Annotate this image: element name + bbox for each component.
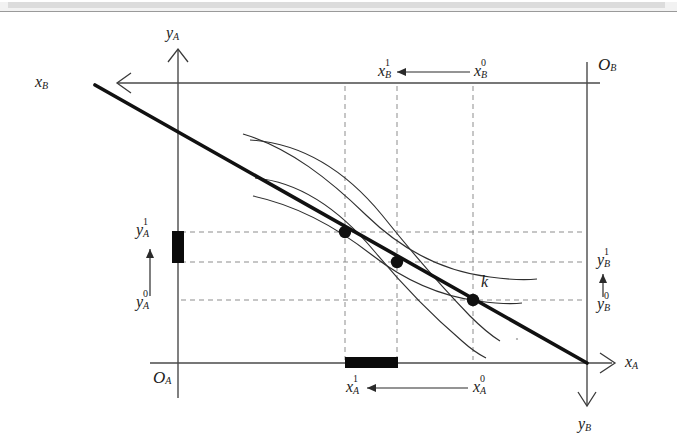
label-x-b-0: xB0 <box>474 63 481 79</box>
x-axis-change-bar <box>345 357 398 368</box>
label-y-b-0: yB0 <box>597 296 604 312</box>
allocation-points <box>339 226 479 306</box>
point-allocation-middle <box>391 256 403 268</box>
scan-speck <box>516 338 518 340</box>
edgeworth-diagram <box>0 0 677 444</box>
origin-label-b: OB <box>598 56 610 73</box>
label-y-a-1: yA1 <box>136 222 143 238</box>
dashed-gridlines <box>181 86 584 360</box>
label-x-a-0: xA0 <box>473 379 480 395</box>
label-x-a-1: xA1 <box>346 379 353 395</box>
annotation-arrows <box>150 72 603 388</box>
indifference-curves <box>243 134 537 358</box>
axis-label-x-b: xB <box>35 74 42 90</box>
axis-label-y-a: yA <box>166 25 173 41</box>
origin-label-a: OA <box>153 369 165 386</box>
label-x-b-1: xB1 <box>378 63 385 79</box>
figure-canvas: yA xB xA yB OA OB xB1 xB0 xA1 xA0 yA1 yA… <box>0 0 677 444</box>
box-frame <box>118 50 612 405</box>
label-y-a-0: yA0 <box>136 294 143 310</box>
indifference-curve-a-outer <box>243 134 537 280</box>
point-k <box>467 294 479 306</box>
label-y-b-1: yB1 <box>597 252 604 268</box>
y-axis-change-bar <box>172 231 184 263</box>
axis-label-y-b: yB <box>578 416 585 432</box>
label-point-k: k <box>481 274 488 290</box>
axis-arrowheads <box>117 49 615 406</box>
axis-label-x-a: xA <box>625 354 632 370</box>
point-allocation-upper <box>339 226 351 238</box>
budget-line <box>95 85 587 363</box>
indifference-curve-b-upper <box>250 140 500 341</box>
